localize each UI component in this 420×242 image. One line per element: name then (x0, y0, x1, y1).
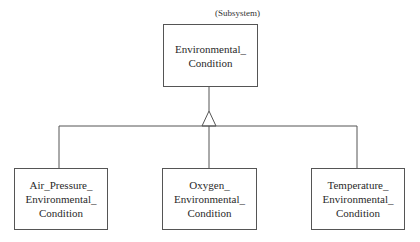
class-name-line: Condition (187, 206, 231, 220)
generalization-triangle-icon (202, 111, 216, 126)
class-air-pressure-environmental-condition[interactable]: Air_Pressure_ Environmental_ Condition (14, 168, 108, 230)
class-name-line: Environmental_ (323, 192, 394, 206)
stereotype-label: (Subsystem) (215, 8, 260, 18)
class-environmental-condition[interactable]: Environmental_ Condition (163, 24, 258, 87)
class-name-line: Oxygen_ (189, 178, 229, 192)
class-name-line: Environmental_ (26, 192, 97, 206)
class-name-line: Condition (336, 206, 380, 220)
class-name-line: Environmental_ (175, 42, 246, 56)
class-name-line: Condition (39, 206, 83, 220)
class-oxygen-environmental-condition[interactable]: Oxygen_ Environmental_ Condition (162, 168, 257, 230)
class-name-line: Environmental_ (174, 192, 245, 206)
class-name-line: Temperature_ (328, 178, 389, 192)
class-temperature-environmental-condition[interactable]: Temperature_ Environmental_ Condition (311, 168, 405, 230)
class-name-line: Air_Pressure_ (30, 178, 93, 192)
class-name-line: Condition (188, 56, 232, 70)
